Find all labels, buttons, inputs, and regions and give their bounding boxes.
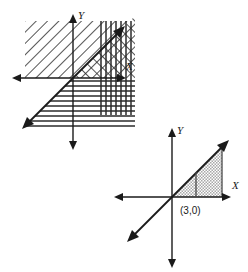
figure-root: X Y	[0, 0, 248, 272]
graph-figure-canvas: X Y	[0, 0, 248, 272]
x-axis-label: X	[231, 179, 240, 191]
point-label-3-0: (3,0)	[180, 205, 201, 216]
x-axis-label: X	[125, 60, 134, 72]
